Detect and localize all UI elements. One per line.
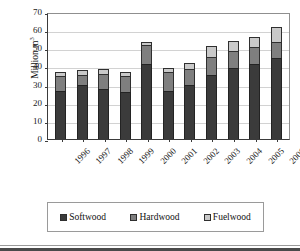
- y-axis-tick-label: 0: [20, 135, 42, 144]
- y-axis-tick-label: 60: [20, 26, 42, 35]
- legend-item-softwood[interactable]: Softwood: [60, 212, 106, 222]
- bar-segment-fuelwood: [249, 37, 260, 48]
- x-axis-tick-label: 2000: [158, 146, 178, 166]
- y-axis-tick-label: 10: [20, 117, 42, 126]
- bar-series-group: [48, 14, 289, 139]
- x-axis-tick: [105, 139, 106, 142]
- bar-segment-softwood: [120, 92, 131, 139]
- bar-1999: [120, 72, 131, 139]
- bar-1998: [98, 69, 109, 139]
- y-axis-tick-label: 30: [20, 81, 42, 90]
- bar-segment-softwood: [271, 58, 282, 139]
- chart-figure: Million m3 706050403020100 1996199719981…: [0, 0, 300, 251]
- legend-swatch-icon: [130, 214, 137, 221]
- x-axis-tick: [234, 139, 235, 142]
- bar-segment-hardwood: [206, 57, 217, 74]
- y-axis-tick: [45, 141, 48, 142]
- bar-segment-hardwood: [184, 69, 195, 85]
- bar-segment-fuelwood: [271, 27, 282, 42]
- page-rule-thin: [0, 245, 300, 246]
- bar-segment-hardwood: [271, 42, 282, 58]
- x-axis-tick: [277, 139, 278, 142]
- x-axis-tick: [212, 139, 213, 142]
- x-axis-tick-label: 2005: [266, 146, 286, 166]
- bar-segment-softwood: [249, 64, 260, 139]
- y-axis-tick-label: 20: [20, 99, 42, 108]
- bar-segment-hardwood: [55, 76, 66, 91]
- x-axis-tick-label: 2001: [180, 146, 200, 166]
- x-axis-tick-label: 2006: [287, 146, 300, 166]
- bar-segment-softwood: [55, 91, 66, 139]
- bar-segment-hardwood: [228, 51, 239, 68]
- chart-legend: SoftwoodHardwoodFuelwood: [47, 202, 264, 232]
- bar-segment-softwood: [141, 64, 152, 139]
- bar-segment-hardwood: [141, 45, 152, 64]
- bar-segment-fuelwood: [206, 46, 217, 57]
- legend-label: Hardwood: [139, 212, 179, 222]
- bar-segment-hardwood: [98, 74, 109, 89]
- plot-area: [47, 13, 290, 140]
- x-axis-tick: [83, 139, 84, 142]
- y-axis-tick-label: 50: [20, 44, 42, 53]
- bar-segment-hardwood: [120, 76, 131, 92]
- bar-segment-hardwood: [163, 72, 174, 91]
- legend-label: Fuelwood: [213, 212, 251, 222]
- bar-2003: [206, 46, 217, 139]
- x-axis-tick-label: 1996: [72, 146, 92, 166]
- bar-segment-hardwood: [249, 47, 260, 63]
- legend-swatch-icon: [60, 214, 67, 221]
- bar-segment-softwood: [206, 75, 217, 139]
- y-axis-tick-label: 40: [20, 62, 42, 71]
- x-axis-tick-label: 1998: [115, 146, 135, 166]
- bar-2002: [184, 63, 195, 139]
- bar-2001: [163, 68, 174, 139]
- x-axis-tick-label: 2003: [223, 146, 243, 166]
- x-axis-tick: [126, 139, 127, 142]
- legend-item-hardwood[interactable]: Hardwood: [130, 212, 179, 222]
- x-axis-tick: [148, 139, 149, 142]
- bar-1997: [77, 70, 88, 139]
- y-axis-tick-label: 70: [20, 8, 42, 17]
- legend-item-fuelwood[interactable]: Fuelwood: [204, 212, 251, 222]
- legend-label: Softwood: [69, 212, 106, 222]
- y-axis-title-superscript: 3: [28, 37, 35, 40]
- bar-segment-softwood: [184, 85, 195, 139]
- legend-swatch-icon: [204, 214, 211, 221]
- x-axis-tick-label: 1999: [137, 146, 157, 166]
- bar-segment-fuelwood: [228, 41, 239, 51]
- x-axis-tick: [62, 139, 63, 142]
- bar-2000: [141, 42, 152, 139]
- x-axis-tick-label: 2004: [244, 146, 264, 166]
- bar-segment-softwood: [98, 89, 109, 139]
- x-axis-tick: [169, 139, 170, 142]
- bar-2005: [249, 37, 260, 139]
- bar-2004: [228, 41, 239, 139]
- bar-segment-softwood: [228, 68, 239, 139]
- bar-segment-hardwood: [77, 75, 88, 86]
- x-axis-tick: [191, 139, 192, 142]
- x-axis-tick-label: 1997: [94, 146, 114, 166]
- bar-segment-softwood: [77, 85, 88, 139]
- bar-1996: [55, 72, 66, 139]
- x-axis-tick: [256, 139, 257, 142]
- bar-2006: [271, 27, 282, 139]
- bar-segment-softwood: [163, 91, 174, 139]
- x-axis-tick-label: 2002: [201, 146, 221, 166]
